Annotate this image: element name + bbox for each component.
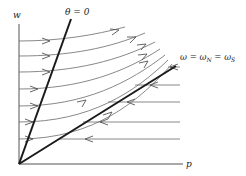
phase-diagram: w p (0, 0, 246, 176)
p-axis-label: p (186, 159, 192, 169)
rightward-arrowheads (25, 29, 148, 142)
theta-zero-label: θ = 0 (65, 7, 90, 17)
separatrix-line (19, 66, 176, 164)
leftward-arrowheads (85, 64, 178, 142)
separatrix-label: ω = ωN = ωS (180, 52, 235, 63)
w-axis-label: w (13, 10, 21, 20)
